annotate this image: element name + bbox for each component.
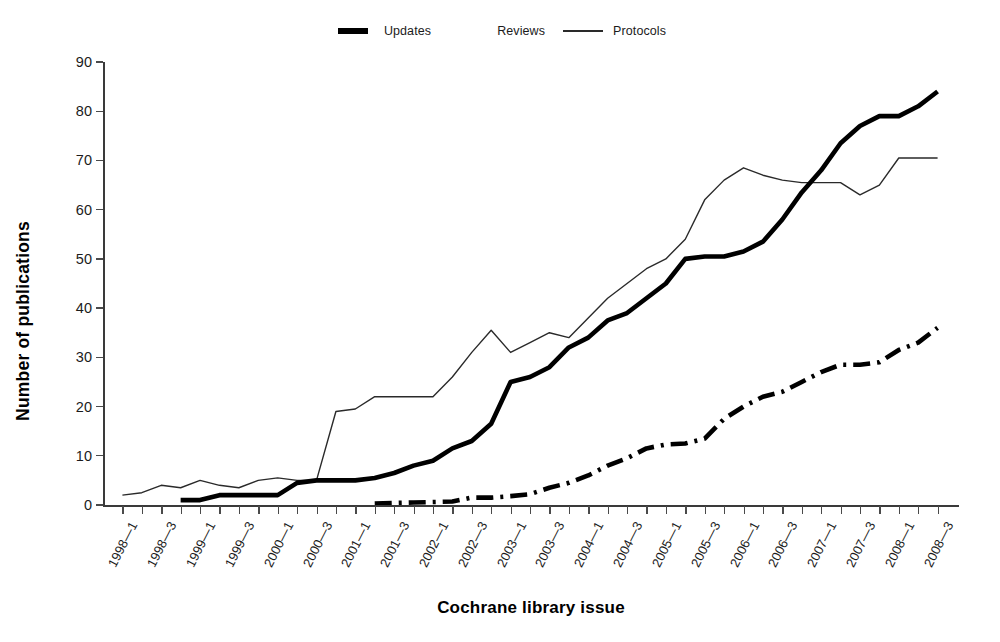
x-tick-label: 2001—3 <box>377 519 413 570</box>
x-tick-mark <box>491 506 492 514</box>
x-tick-mark <box>608 506 609 514</box>
x-tick-label: 2003—3 <box>532 519 568 570</box>
x-tick-mark <box>744 506 745 514</box>
x-tick-mark <box>200 506 201 514</box>
x-axis-title: Cochrane library issue <box>103 598 959 618</box>
x-tick-label: 2008—1 <box>881 519 917 570</box>
y-tick-mark <box>96 209 103 210</box>
legend-swatch-updates-icon <box>334 24 374 38</box>
chart-series-line <box>375 328 938 504</box>
y-tick-label: 90 <box>76 54 92 70</box>
chart-figure: Updates Reviews Protocols 01020304050607… <box>0 0 1000 642</box>
y-tick-mark <box>96 406 103 407</box>
y-tick-mark <box>96 111 103 112</box>
y-tick-label: 10 <box>76 448 92 464</box>
legend-label-updates: Updates <box>384 24 431 38</box>
x-tick-label: 2002—1 <box>416 519 452 570</box>
x-tick-mark <box>181 506 182 514</box>
x-tick-label: 2000—3 <box>299 519 335 570</box>
x-tick-mark <box>588 506 589 514</box>
x-tick-mark <box>278 506 279 514</box>
x-tick-label: 2004—3 <box>610 519 646 570</box>
x-tick-mark <box>336 506 337 514</box>
x-tick-mark <box>724 506 725 514</box>
x-tick-mark <box>705 506 706 514</box>
x-tick-mark <box>375 506 376 514</box>
y-tick-mark <box>96 357 103 358</box>
x-tick-mark <box>297 506 298 514</box>
y-tick-label: 20 <box>76 399 92 415</box>
y-tick-mark <box>96 258 103 259</box>
legend-label-reviews: Reviews <box>497 24 545 38</box>
x-tick-mark <box>627 506 628 514</box>
x-tick-mark <box>860 506 861 514</box>
x-tick-mark <box>899 506 900 514</box>
x-tick-mark <box>317 506 318 514</box>
x-tick-label: 1998—1 <box>105 519 141 570</box>
x-tick-label: 1999—1 <box>183 519 219 570</box>
x-tick-mark <box>841 506 842 514</box>
x-tick-mark <box>685 506 686 514</box>
x-tick-mark <box>355 506 356 514</box>
x-tick-mark <box>802 506 803 514</box>
x-tick-mark <box>122 506 123 514</box>
legend-label-protocols: Protocols <box>613 24 666 38</box>
legend-entry-protocols: Protocols <box>563 24 666 38</box>
x-tick-label: 2004—1 <box>571 519 607 570</box>
y-tick-labels: 0102030405060708090 <box>48 0 92 642</box>
x-tick-mark <box>258 506 259 514</box>
x-tick-label: 1999—3 <box>222 519 258 570</box>
y-tick-label: 50 <box>76 251 92 267</box>
chart-legend: Updates Reviews Protocols <box>0 16 1000 46</box>
x-tick-mark <box>414 506 415 514</box>
x-tick-mark <box>161 506 162 514</box>
x-tick-mark <box>879 506 880 514</box>
x-tick-mark <box>763 506 764 514</box>
x-tick-label: 2001—1 <box>338 519 374 570</box>
x-tick-mark <box>142 506 143 514</box>
x-tick-label: 2006—3 <box>765 519 801 570</box>
legend-entry-reviews: Reviews <box>497 24 545 38</box>
x-tick-label: 2007—1 <box>804 519 840 570</box>
x-tick-mark <box>452 506 453 514</box>
legend-swatch-protocols-icon <box>563 24 603 38</box>
x-tick-label: 2006—1 <box>726 519 762 570</box>
x-tick-mark <box>782 506 783 514</box>
y-tick-mark <box>96 160 103 161</box>
x-tick-label: 2003—1 <box>493 519 529 570</box>
x-tick-mark <box>239 506 240 514</box>
chart-plot-area <box>103 62 957 505</box>
y-tick-mark <box>96 61 103 62</box>
chart-series-line <box>122 158 937 495</box>
y-axis-title: Number of publications <box>0 0 46 642</box>
x-tick-label: 2000—1 <box>260 519 296 570</box>
x-tick-mark <box>918 506 919 514</box>
x-tick-label: 2008—3 <box>920 519 956 570</box>
y-tick-mark <box>96 455 103 456</box>
y-tick-mark <box>96 504 103 505</box>
x-tick-mark <box>530 506 531 514</box>
x-tick-label: 1998—3 <box>144 519 180 570</box>
y-tick-label: 60 <box>76 202 92 218</box>
x-tick-label: 2007—3 <box>843 519 879 570</box>
x-tick-mark <box>394 506 395 514</box>
x-tick-mark <box>821 506 822 514</box>
y-tick-mark <box>96 307 103 308</box>
x-tick-mark <box>472 506 473 514</box>
y-tick-label: 80 <box>76 103 92 119</box>
x-tick-label: 2002—3 <box>454 519 490 570</box>
x-tick-mark <box>549 506 550 514</box>
x-tick-mark <box>511 506 512 514</box>
x-tick-mark <box>433 506 434 514</box>
x-tick-mark <box>646 506 647 514</box>
x-tick-mark <box>569 506 570 514</box>
x-tick-label: 2005—1 <box>649 519 685 570</box>
x-tick-mark <box>938 506 939 514</box>
chart-series-line <box>181 92 938 501</box>
x-tick-mark <box>219 506 220 514</box>
y-tick-label: 70 <box>76 152 92 168</box>
y-tick-label: 30 <box>76 349 92 365</box>
x-tick-mark <box>666 506 667 514</box>
y-tick-label: 0 <box>84 497 92 513</box>
y-tick-label: 40 <box>76 300 92 316</box>
